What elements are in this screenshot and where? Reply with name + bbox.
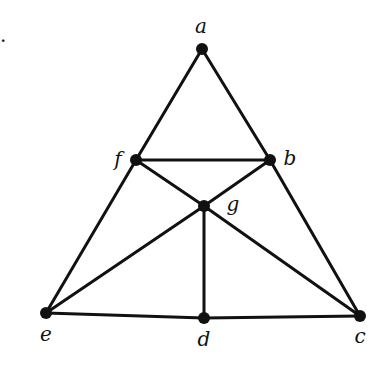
vertex-c [354, 310, 366, 322]
vertex-label-e: e [40, 322, 52, 346]
vertex-f [130, 154, 142, 166]
vertex-label-f: f [112, 147, 125, 171]
edge-f-g [136, 160, 204, 206]
figure-marker: . [0, 23, 6, 47]
edge-g-c [204, 206, 360, 316]
edge-a-b [202, 49, 270, 160]
edge-g-e [46, 206, 204, 313]
vertex-d [198, 312, 210, 324]
vertex-g [198, 200, 210, 212]
edge-a-f [136, 49, 202, 160]
edges [46, 49, 360, 318]
vertex-a [196, 43, 208, 55]
edge-b-c [270, 160, 360, 316]
vertex-label-d: d [198, 327, 211, 351]
vertex-e [40, 307, 52, 319]
edge-e-d [46, 313, 204, 318]
vertex-label-b: b [284, 146, 297, 170]
graph-diagram: . abcdefg [0, 0, 390, 369]
vertex-label-a: a [195, 14, 207, 38]
vertex-label-g: g [227, 192, 240, 216]
vertex-b [264, 154, 276, 166]
edge-f-e [46, 160, 136, 313]
edge-d-c [204, 316, 360, 318]
vertex-label-c: c [354, 324, 365, 348]
